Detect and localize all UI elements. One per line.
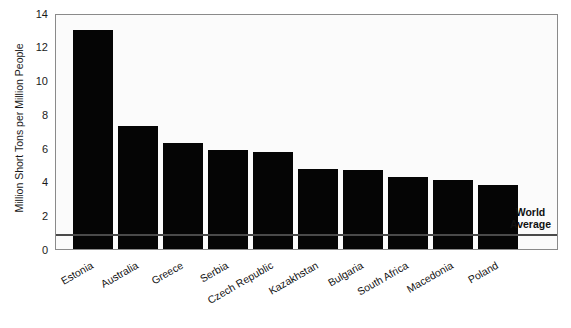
world-average-label: World Average <box>510 206 551 230</box>
x-tick-mark <box>93 249 94 250</box>
world-average-line <box>56 234 558 236</box>
x-tick-mark <box>228 249 229 250</box>
bar-estonia[interactable] <box>73 30 113 249</box>
x-tick-mark-top <box>138 14 139 15</box>
y-tick-label-2: 2 <box>14 210 48 222</box>
y-tick-mark <box>55 48 56 49</box>
bar-australia[interactable] <box>118 126 158 249</box>
y-tick-label-12: 12 <box>14 41 48 53</box>
bar-bulgaria[interactable] <box>343 170 383 249</box>
x-tick-mark <box>408 249 409 250</box>
x-tick-mark-top <box>93 14 94 15</box>
x-tick-mark-top <box>273 14 274 15</box>
y-tick-mark-right <box>557 116 558 117</box>
x-tick-mark <box>363 249 364 250</box>
x-tick-mark <box>318 249 319 250</box>
world-average-label-line1: World <box>510 206 551 218</box>
x-tick-mark <box>273 249 274 250</box>
y-tick-label-6: 6 <box>14 143 48 155</box>
bar-kazakhstan[interactable] <box>298 169 338 249</box>
x-tick-mark-top <box>363 14 364 15</box>
bar-greece[interactable] <box>163 143 203 249</box>
y-tick-mark-right <box>557 183 558 184</box>
plot-area: World Average <box>55 14 558 250</box>
x-tick-mark <box>498 249 499 250</box>
y-tick-label-14: 14 <box>14 8 48 20</box>
x-tick-mark-top <box>318 14 319 15</box>
y-tick-mark-right <box>557 48 558 49</box>
y-tick-mark <box>55 150 56 151</box>
bar-south-africa[interactable] <box>388 177 428 249</box>
y-tick-label-4: 4 <box>14 176 48 188</box>
x-tick-mark-top <box>228 14 229 15</box>
x-tick-mark-top <box>183 14 184 15</box>
y-tick-mark-right <box>557 150 558 151</box>
y-tick-mark <box>55 82 56 83</box>
x-tick-mark <box>138 249 139 250</box>
y-tick-label-8: 8 <box>14 109 48 121</box>
x-tick-mark-top <box>408 14 409 15</box>
y-tick-mark <box>55 217 56 218</box>
y-tick-mark <box>55 183 56 184</box>
x-tick-mark <box>453 249 454 250</box>
y-tick-mark-right <box>557 217 558 218</box>
x-tick-mark <box>183 249 184 250</box>
chart-figure: Million Short Tons per Million People 14… <box>0 0 571 328</box>
y-tick-label-0: 0 <box>14 244 48 256</box>
y-tick-mark <box>55 116 56 117</box>
world-average-label-line2: Average <box>510 218 551 230</box>
x-tick-mark-top <box>498 14 499 15</box>
x-tick-mark-top <box>453 14 454 15</box>
y-tick-label-10: 10 <box>14 75 48 87</box>
y-tick-mark-right <box>557 82 558 83</box>
bar-macedonia[interactable] <box>433 180 473 249</box>
